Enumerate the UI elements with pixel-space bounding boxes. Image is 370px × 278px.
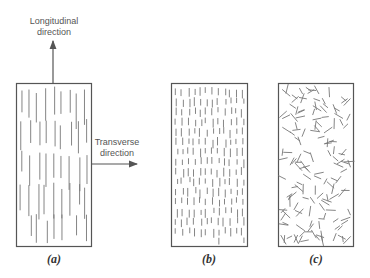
- transverse-line1: Transverse: [92, 137, 142, 148]
- transverse-label: Transverse direction: [92, 137, 142, 159]
- panel-b-fibers: [175, 87, 244, 244]
- panel-c-fibers: [278, 84, 354, 246]
- panel-b-box: [172, 84, 248, 247]
- longitudinal-line1: Longitudinal: [24, 16, 84, 27]
- caption-b: (b): [189, 252, 229, 267]
- caption-c: (c): [296, 252, 336, 267]
- fiber-diagram: [0, 0, 370, 278]
- longitudinal-line2: direction: [24, 27, 84, 38]
- transverse-line2: direction: [92, 148, 142, 159]
- panel-a-fibers: [20, 87, 87, 243]
- longitudinal-label: Longitudinal direction: [24, 16, 84, 38]
- caption-a: (a): [34, 252, 74, 267]
